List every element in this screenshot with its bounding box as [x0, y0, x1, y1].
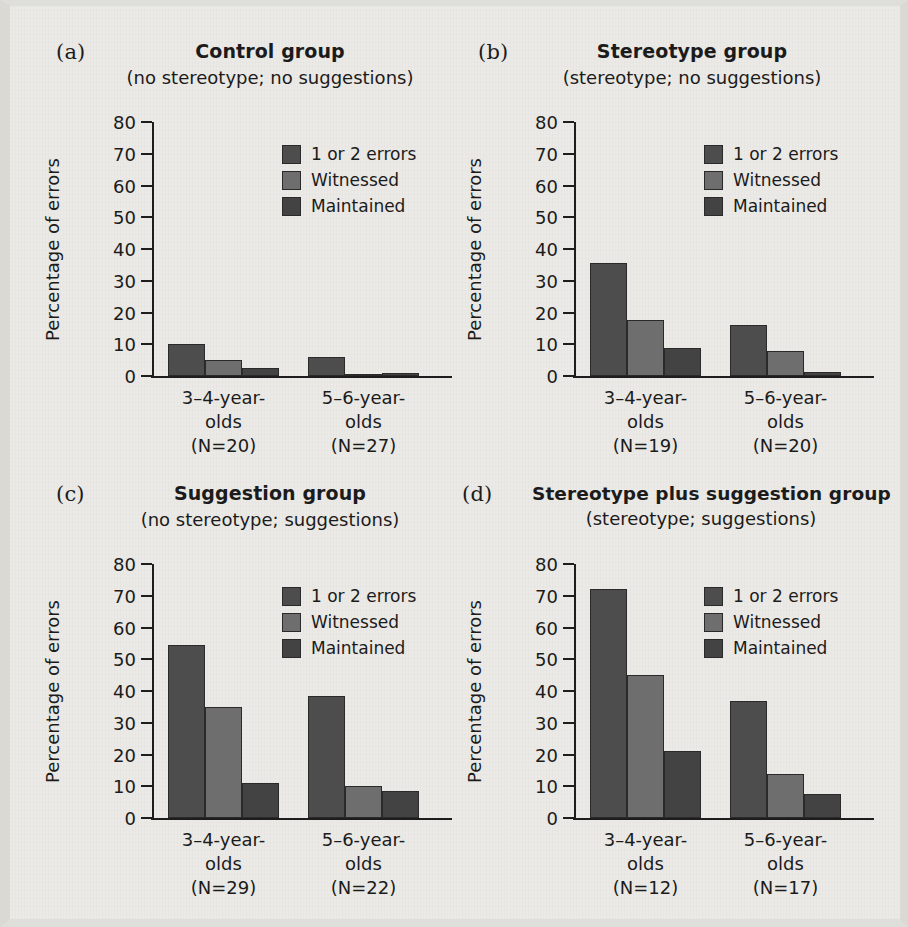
y-tick-label-d-80: 80 [535, 554, 558, 575]
y-tick-mark-b-50 [563, 216, 574, 218]
legend-c: 1 or 2 errorsWitnessedMaintained [282, 586, 416, 658]
y-tick-mark-b-0 [563, 375, 574, 377]
legend-item-c-3[interactable]: Maintained [282, 638, 416, 658]
legend-swatch-icon-d-2 [704, 613, 723, 632]
legend-label-c-1: 1 or 2 errors [311, 586, 416, 606]
legend-label-d-1: 1 or 2 errors [733, 586, 838, 606]
panel-letter-c: (c) [56, 482, 85, 506]
y-tick-mark-c-80 [141, 563, 152, 565]
y-tick-label-a-70: 70 [113, 143, 136, 164]
bar-d-g2-s1 [730, 701, 767, 818]
y-tick-mark-a-20 [141, 312, 152, 314]
y-tick-label-d-70: 70 [535, 585, 558, 606]
legend-swatch-icon-b-2 [704, 171, 723, 190]
figure-canvas: (a)Control group(no stereotype; no sugge… [0, 0, 908, 927]
x-group-label-line1-d-2: 5–6-year- [708, 828, 863, 852]
bar-a-g2-s2 [345, 374, 382, 376]
x-group-label-line1-a-1: 3–4-year- [146, 386, 301, 410]
legend-label-b-3: Maintained [733, 196, 827, 216]
y-tick-label-c-10: 10 [113, 776, 136, 797]
y-tick-label-c-0: 0 [125, 808, 136, 829]
legend-d: 1 or 2 errorsWitnessedMaintained [704, 586, 838, 658]
y-tick-mark-b-10 [563, 343, 574, 345]
y-tick-label-b-40: 40 [535, 239, 558, 260]
x-group-label-line2-a-1: olds [146, 410, 301, 434]
y-tick-label-b-70: 70 [535, 143, 558, 164]
legend-item-a-1[interactable]: 1 or 2 errors [282, 144, 416, 164]
legend-label-a-3: Maintained [311, 196, 405, 216]
y-tick-mark-a-10 [141, 343, 152, 345]
y-tick-mark-b-30 [563, 280, 574, 282]
bar-a-g1-s2 [205, 360, 242, 376]
x-group-label-line1-a-2: 5–6-year- [286, 386, 441, 410]
x-group-label-line2-d-1: olds [568, 852, 723, 876]
bar-b-g2-s1 [730, 325, 767, 376]
y-axis-title-text-b: Percentage of errors [464, 157, 485, 340]
bar-a-g2-s1 [308, 357, 345, 376]
y-axis-line-a [152, 122, 154, 376]
legend-swatch-icon-b-1 [704, 145, 723, 164]
x-axis-line-c [151, 818, 452, 820]
y-tick-mark-d-60 [563, 627, 574, 629]
legend-item-d-2[interactable]: Witnessed [704, 612, 838, 632]
x-group-label-a-1: 3–4-year-olds(N=20) [146, 386, 301, 457]
bar-b-g1-s2 [627, 320, 664, 376]
y-tick-mark-d-0 [563, 817, 574, 819]
bar-d-g1-s1 [590, 589, 627, 818]
bar-d-g1-s3 [664, 751, 701, 818]
y-tick-mark-c-0 [141, 817, 152, 819]
chart-panel-c: (c)Suggestion group(no stereotype; sugge… [34, 468, 452, 923]
y-axis-title-c: Percentage of errors [40, 564, 64, 818]
y-tick-label-d-50: 50 [535, 649, 558, 670]
x-axis-line-a [151, 376, 452, 378]
bar-a-g1-s3 [242, 368, 279, 376]
legend-label-d-2: Witnessed [733, 612, 821, 632]
legend-item-c-2[interactable]: Witnessed [282, 612, 416, 632]
y-tick-mark-b-70 [563, 153, 574, 155]
legend-item-a-3[interactable]: Maintained [282, 196, 416, 216]
bar-d-g1-s2 [627, 675, 664, 818]
panel-title-block-c: Suggestion group(no stereotype; suggesti… [92, 482, 448, 531]
legend-a: 1 or 2 errorsWitnessedMaintained [282, 144, 416, 216]
x-group-label-line1-c-2: 5–6-year- [286, 828, 441, 852]
panel-title-block-a: Control group(no stereotype; no suggesti… [92, 40, 448, 89]
y-tick-label-d-40: 40 [535, 681, 558, 702]
legend-swatch-icon-a-1 [282, 145, 301, 164]
y-tick-label-d-30: 30 [535, 712, 558, 733]
bar-c-g1-s2 [205, 707, 242, 818]
y-tick-mark-d-30 [563, 722, 574, 724]
y-tick-mark-a-30 [141, 280, 152, 282]
bar-c-g2-s1 [308, 696, 345, 818]
legend-item-d-3[interactable]: Maintained [704, 638, 838, 658]
bar-d-g2-s2 [767, 774, 804, 818]
legend-label-c-2: Witnessed [311, 612, 399, 632]
legend-item-b-3[interactable]: Maintained [704, 196, 838, 216]
legend-swatch-icon-a-2 [282, 171, 301, 190]
panel-title-d: Stereotype plus suggestion group [532, 482, 870, 505]
y-tick-mark-a-50 [141, 216, 152, 218]
legend-label-d-3: Maintained [733, 638, 827, 658]
y-tick-mark-c-50 [141, 658, 152, 660]
legend-item-c-1[interactable]: 1 or 2 errors [282, 586, 416, 606]
y-tick-mark-d-80 [563, 563, 574, 565]
chart-panel-d: (d)Stereotype plus suggestion group(ster… [456, 468, 874, 923]
y-tick-label-b-50: 50 [535, 207, 558, 228]
y-tick-mark-b-60 [563, 185, 574, 187]
legend-swatch-icon-c-1 [282, 587, 301, 606]
x-group-label-line2-a-2: olds [286, 410, 441, 434]
x-group-label-line3-c-2: (N=22) [286, 876, 441, 900]
y-axis-line-d [574, 564, 576, 818]
legend-item-a-2[interactable]: Witnessed [282, 170, 416, 190]
panel-subtitle-c: (no stereotype; suggestions) [92, 508, 448, 531]
legend-item-b-1[interactable]: 1 or 2 errors [704, 144, 838, 164]
panel-subtitle-a: (no stereotype; no suggestions) [92, 66, 448, 89]
legend-item-b-2[interactable]: Witnessed [704, 170, 838, 190]
bar-c-g2-s2 [345, 786, 382, 818]
y-tick-mark-d-40 [563, 690, 574, 692]
legend-swatch-icon-b-3 [704, 197, 723, 216]
panel-subtitle-b: (stereotype; no suggestions) [514, 66, 870, 89]
legend-label-b-2: Witnessed [733, 170, 821, 190]
legend-item-d-1[interactable]: 1 or 2 errors [704, 586, 838, 606]
y-tick-mark-b-20 [563, 312, 574, 314]
x-group-label-d-2: 5–6-year-olds(N=17) [708, 828, 863, 899]
